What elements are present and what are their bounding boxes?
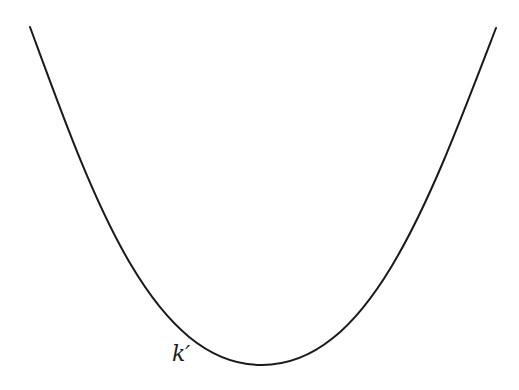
curve-label-k-prime: k′ bbox=[172, 343, 190, 365]
parabola-curve bbox=[0, 0, 519, 390]
curve-path bbox=[30, 27, 496, 365]
diagram-canvas: k′ bbox=[0, 0, 519, 390]
